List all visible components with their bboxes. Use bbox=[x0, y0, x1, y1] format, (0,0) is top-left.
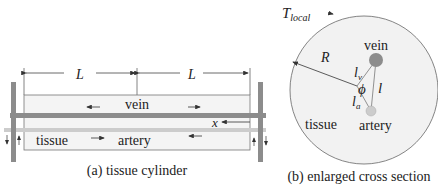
caption-b: (b) enlarged cross section bbox=[287, 169, 430, 185]
l-label: l bbox=[378, 80, 382, 96]
diagram-canvas: L L vein tissue artery x (a) tissue cyli… bbox=[0, 0, 438, 190]
vein-label-b: vein bbox=[364, 38, 388, 53]
tissue-cylinder-figure: L L vein tissue artery x (a) tissue cyli… bbox=[4, 67, 266, 179]
left-end-vessel bbox=[11, 82, 16, 162]
caption-a: (a) tissue cylinder bbox=[87, 163, 188, 179]
tissue-label-b: tissue bbox=[305, 117, 337, 132]
dimension-label-right: L bbox=[187, 67, 196, 82]
vein-cross-section bbox=[369, 53, 383, 67]
artery-label: artery bbox=[118, 133, 151, 148]
phi-label: ϕ bbox=[358, 81, 366, 97]
right-end-vessel bbox=[258, 82, 263, 162]
artery-cross-section bbox=[366, 106, 376, 116]
vein-vessel bbox=[10, 113, 266, 118]
artery-label-b: artery bbox=[359, 118, 392, 133]
cross-section-figure: Tlocal R vein lv ϕ l la tissue artery (b… bbox=[282, 5, 438, 185]
tissue-label: tissue bbox=[36, 133, 68, 148]
dimension-label-left: L bbox=[75, 67, 84, 82]
artery-vessel bbox=[4, 128, 266, 132]
radius-label: R bbox=[320, 50, 330, 65]
t-local-label: Tlocal bbox=[282, 5, 311, 23]
vein-label: vein bbox=[125, 97, 149, 112]
x-axis-label: x bbox=[211, 115, 218, 130]
